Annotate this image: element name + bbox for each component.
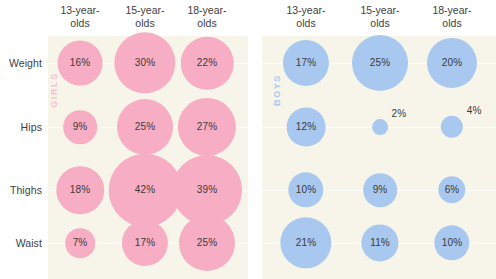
column-header-girls-18: 18-year-olds: [187, 4, 226, 29]
bubble-girls-waist-13: 7%: [65, 228, 95, 258]
bubble-value: 9%: [73, 122, 88, 132]
bubble-girls-waist-18: 25%: [179, 215, 235, 271]
bubble-value: 18%: [70, 185, 90, 195]
bubble-boys-weight-18: 20%: [427, 38, 477, 88]
bubble-boys-thighs-15: 9%: [363, 173, 397, 207]
bubble-value: 12%: [296, 122, 316, 132]
bubble-value: 21%: [296, 238, 316, 248]
column-header-boys-15: 15-year-olds: [360, 4, 399, 29]
bubble-value: 42%: [135, 185, 155, 195]
bubble-girls-thighs-15: 42%: [109, 154, 182, 227]
bubble-girls-thighs-13: 18%: [56, 166, 104, 214]
column-header-girls-15: 15-year-olds: [125, 4, 164, 29]
bubble-value: 16%: [70, 58, 90, 68]
bubble-value: 25%: [135, 122, 155, 132]
row-label-column: Weight Hips Thighs Waist: [0, 0, 48, 279]
bubble-value: 20%: [442, 58, 462, 68]
series-label-girls: GIRLS: [49, 72, 59, 108]
bubble-value: 30%: [135, 58, 155, 68]
bubble-value: 10%: [296, 185, 316, 195]
bubble-value: 2%: [392, 109, 407, 119]
row-label-weight: Weight: [9, 57, 42, 69]
bubble-value: 25%: [370, 58, 390, 68]
bubble-value: 9%: [373, 185, 388, 195]
bubble-girls-weight-13: 16%: [58, 41, 103, 86]
bubble-boys-waist-15: 11%: [361, 224, 398, 261]
row-label-waist: Waist: [16, 237, 42, 249]
bubble-value: 17%: [135, 238, 155, 248]
bubble-value: 27%: [197, 122, 217, 132]
row-label-hips: Hips: [21, 121, 42, 133]
bubble-boys-weight-13: 17%: [283, 40, 329, 86]
bubble-value: 11%: [370, 238, 390, 248]
bubble-value: 7%: [73, 238, 88, 248]
bubble-value: 4%: [467, 106, 482, 116]
row-label-thighs: Thighs: [10, 184, 42, 196]
panel-divider: [248, 0, 262, 279]
bubble-value: 22%: [197, 58, 217, 68]
bubble-matrix-chart: 16%30%22%9%25%27%18%42%39%7%17%25%17%25%…: [0, 0, 496, 279]
bubble-girls-hips-13: 9%: [63, 110, 97, 144]
bubble-girls-hips-15: 25%: [117, 99, 173, 155]
bubble-boys-hips-15: [372, 119, 388, 135]
column-header-boys-18: 18-year-olds: [432, 4, 471, 29]
column-header-boys-13: 13-year-olds: [286, 4, 325, 29]
bubble-girls-hips-18: 27%: [178, 98, 236, 156]
series-label-boys: BOYS: [272, 74, 282, 106]
bubble-boys-hips-13: 12%: [287, 108, 326, 147]
bubble-value: 25%: [197, 238, 217, 248]
bubble-girls-waist-15: 17%: [122, 220, 168, 266]
bubble-value: 6%: [445, 185, 460, 195]
bubble-value: 10%: [442, 238, 462, 248]
bubble-value: 17%: [296, 58, 316, 68]
bubble-girls-weight-18: 22%: [181, 37, 234, 90]
column-header-girls-13: 13-year-olds: [60, 4, 99, 29]
bubble-boys-weight-15: 25%: [352, 35, 408, 91]
bubble-value: 39%: [197, 185, 217, 195]
